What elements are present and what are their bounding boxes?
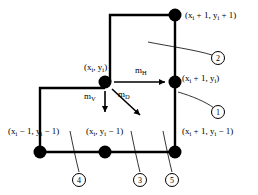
node-label-bottom-left: (xi − 1, yi − 1) (8, 127, 59, 136)
vector-label-m-vertical: mV (84, 92, 96, 101)
node-label-center: (xi, yi) (84, 63, 107, 72)
vector-label-m-horizontal: mH (135, 66, 147, 75)
callout-number-1: 1 (211, 105, 225, 119)
grid-node-dot (34, 146, 47, 159)
callout-number-3: 3 (133, 173, 147, 187)
callout-number-4: 4 (72, 173, 86, 187)
callout-number-2: 2 (211, 51, 225, 65)
node-label-bottom-right: (xi + 1, yi − 1) (182, 127, 233, 136)
node-label-top-right: (xi + 1, yi + 1) (185, 11, 236, 20)
vector-arrow-head (102, 106, 108, 112)
grid-node-dot (169, 9, 182, 22)
callout-leader-line (148, 42, 212, 55)
vector-arrow-head (159, 79, 165, 85)
vector-arrows-group (102, 79, 165, 115)
figure-canvas: (xi + 1, yi + 1) (xi, yi) (xi + 1, yi) (… (0, 0, 258, 195)
grid-node-dot (99, 76, 112, 89)
node-label-bottom-mid: (xi, yi − 1) (86, 127, 123, 136)
grid-node-dot (99, 146, 112, 159)
callout-number-5: 5 (165, 173, 179, 187)
grid-node-dot (169, 76, 182, 89)
vector-label-m-diagonal: mD (118, 90, 130, 99)
callout-leader-line (178, 92, 214, 108)
grid-node-dot (169, 146, 182, 159)
node-label-right: (xi + 1, yi) (182, 74, 219, 83)
